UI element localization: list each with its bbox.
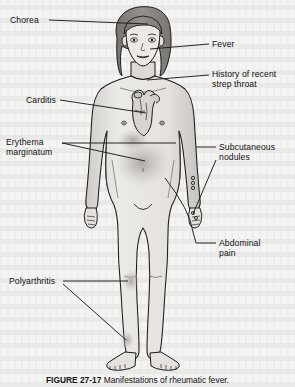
label-polyarthritis: Polyarthritis [9,277,55,287]
pupil-right [151,39,154,42]
nipple-right [160,121,165,125]
label-subcutaneous-nodules: Subcutaneous nodules [219,143,275,162]
leader-polyarthritis-line-2 [63,284,126,340]
foot-left [107,352,136,370]
foot-right [150,352,179,370]
hand-left [84,208,97,228]
figure-caption-number: FIGURE 27-17 [46,375,101,385]
nipple-left [122,121,127,125]
label-carditis: Carditis [26,96,56,106]
figure-illustration: Chorea Carditis Erythema marginatum Poly… [0,0,295,387]
label-erythema-marginatum: Erythema marginatum [6,138,52,157]
label-abdominal-pain: Abdominal pain [219,239,261,258]
figure-caption-text: Manifestations of rheumatic fever. [104,375,229,385]
label-chorea: Chorea [10,16,39,26]
label-fever: Fever [212,40,234,50]
ear-left [122,36,126,46]
label-strep-throat: History of recent strep throat [212,70,276,89]
polyarthritis-ankle-mark [120,331,134,349]
subcutaneous-nodule-right-wrist [191,176,194,189]
erythema-marginatum-mark-upper [117,129,149,151]
rheumatic-fever-body-diagram [0,0,295,387]
pupil-left [133,39,136,42]
ear-right [160,36,164,46]
body-figure [84,7,202,371]
figure-caption: FIGURE 27-17 Manifestations of rheumatic… [46,375,295,385]
